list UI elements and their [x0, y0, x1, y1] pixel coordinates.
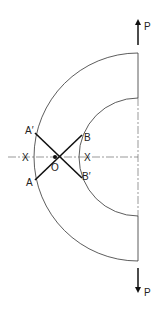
- point-o: [53, 155, 57, 159]
- bottom-arrowhead-icon: [135, 287, 141, 293]
- label-b-prime: B′: [82, 171, 91, 182]
- label-a: A: [26, 177, 33, 188]
- label-p-top: P: [144, 21, 151, 32]
- label-b: B: [84, 132, 91, 143]
- label-o: O: [51, 162, 59, 173]
- label-a-prime: A′: [25, 125, 34, 136]
- label-x-right: X: [84, 152, 91, 163]
- line-a-to-b: [35, 135, 82, 180]
- curved-beam-diagram: A′ A B B′ O X X P P: [0, 0, 158, 312]
- top-arrowhead-icon: [135, 19, 141, 25]
- label-x-left: X: [22, 152, 29, 163]
- label-p-bottom: P: [144, 287, 151, 298]
